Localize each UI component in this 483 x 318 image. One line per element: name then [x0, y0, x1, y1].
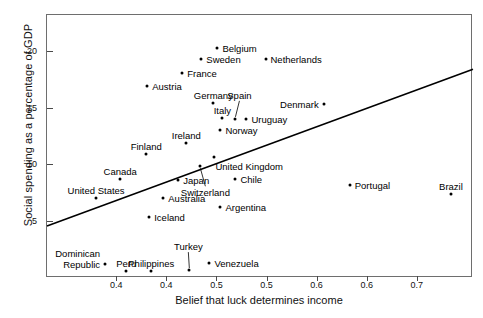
- x-tick-mark: [267, 276, 268, 281]
- point-label: Philippines: [128, 258, 174, 269]
- y-tick-label: 10: [0, 159, 37, 169]
- x-tick-label: 0.7: [411, 280, 424, 290]
- data-point[interactable]: [125, 270, 128, 273]
- data-point[interactable]: [348, 184, 351, 187]
- point-label: Portugal: [355, 180, 390, 191]
- point-label: Belgium: [222, 42, 256, 53]
- x-tick-label: 0.5: [260, 280, 273, 290]
- y-tick-mark: [47, 164, 53, 165]
- data-point[interactable]: [219, 129, 222, 132]
- x-tick-label: 0.4: [160, 280, 173, 290]
- data-point[interactable]: [234, 117, 237, 120]
- data-point[interactable]: [162, 196, 165, 199]
- label-leader-line: [235, 101, 239, 117]
- point-label: France: [187, 67, 217, 78]
- point-label: Sweden: [206, 54, 240, 65]
- data-point[interactable]: [208, 262, 211, 265]
- point-label: Venezuela: [214, 258, 258, 269]
- point-label: Japan: [183, 174, 209, 185]
- point-label: Austria: [152, 81, 182, 92]
- point-label: United States: [68, 184, 125, 195]
- data-point[interactable]: [264, 58, 267, 61]
- trendline-and-leaders: [47, 15, 473, 278]
- data-point[interactable]: [213, 156, 216, 159]
- label-leader-line: [188, 252, 189, 268]
- point-label: Argentina: [225, 201, 266, 212]
- data-point[interactable]: [245, 117, 248, 120]
- point-label: Chile: [240, 173, 262, 184]
- data-point[interactable]: [148, 216, 151, 219]
- y-tick-label: 15: [0, 103, 37, 113]
- y-tick-mark: [47, 221, 53, 222]
- y-tick-label: 20: [0, 46, 37, 56]
- data-point[interactable]: [200, 58, 203, 61]
- data-point[interactable]: [177, 178, 180, 181]
- x-tick-label: 0.4: [110, 280, 123, 290]
- data-point[interactable]: [181, 71, 184, 74]
- x-tick-label: 0.6: [310, 280, 323, 290]
- y-tick-label: 5: [0, 216, 37, 226]
- x-tick-mark: [116, 276, 117, 281]
- point-label: Ireland: [172, 129, 201, 140]
- point-label: Denmark: [280, 99, 319, 110]
- point-label: Netherlands: [271, 54, 322, 65]
- data-point[interactable]: [234, 177, 237, 180]
- point-label: Australia: [168, 192, 205, 203]
- point-label: United Kingdom: [215, 161, 283, 172]
- data-point[interactable]: [185, 141, 188, 144]
- point-label: Finland: [131, 140, 162, 151]
- data-point[interactable]: [145, 152, 148, 155]
- x-tick-mark: [166, 276, 167, 281]
- x-tick-label: 0.5: [210, 280, 223, 290]
- x-tick-label: 0.6: [360, 280, 373, 290]
- point-label: Spain: [227, 89, 251, 100]
- data-point[interactable]: [150, 270, 153, 273]
- y-tick-mark: [47, 108, 53, 109]
- point-label: Italy: [214, 104, 231, 115]
- x-tick-mark: [216, 276, 217, 281]
- x-tick-mark: [317, 276, 318, 281]
- point-label: Uruguay: [251, 113, 287, 124]
- point-label: Canada: [104, 165, 137, 176]
- data-point[interactable]: [216, 46, 219, 49]
- data-point[interactable]: [119, 177, 122, 180]
- y-axis-label: Social spending as a percentage of GDP: [22, 0, 34, 250]
- point-label: Iceland: [154, 212, 185, 223]
- plot-area: BelgiumSwedenNetherlandsFranceAustriaGer…: [46, 14, 472, 277]
- x-tick-mark: [417, 276, 418, 281]
- x-axis-label: Belief that luck determines income: [46, 294, 472, 306]
- chart-container: Social spending as a percentage of GDP B…: [0, 0, 483, 318]
- point-label: DominicanRepublic: [55, 248, 100, 270]
- point-label: Brazil: [439, 181, 463, 192]
- y-tick-mark: [47, 51, 53, 52]
- data-point[interactable]: [188, 269, 191, 272]
- data-point[interactable]: [221, 116, 224, 119]
- point-label: Norway: [225, 125, 257, 136]
- data-point[interactable]: [146, 85, 149, 88]
- data-point[interactable]: [104, 263, 107, 266]
- data-point[interactable]: [322, 103, 325, 106]
- data-point[interactable]: [95, 196, 98, 199]
- data-point[interactable]: [219, 205, 222, 208]
- point-label: Turkey: [174, 241, 203, 252]
- data-point[interactable]: [199, 165, 202, 168]
- x-tick-mark: [367, 276, 368, 281]
- data-point[interactable]: [449, 193, 452, 196]
